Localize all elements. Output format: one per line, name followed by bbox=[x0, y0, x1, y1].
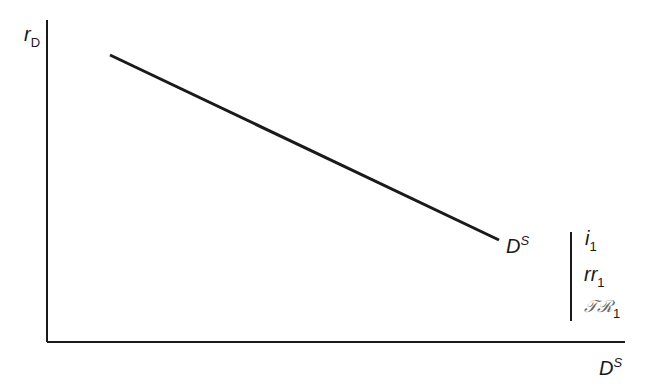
y-axis-label-sub: D bbox=[31, 35, 40, 50]
y-axis-label-base: r bbox=[24, 23, 31, 45]
shift-param-sub: 1 bbox=[613, 306, 620, 321]
shift-param-tr1: 𝒯ℛ1 bbox=[584, 295, 620, 315]
x-axis-label: DS bbox=[599, 358, 622, 378]
curve-label-base: D bbox=[506, 235, 520, 257]
shift-param-base: 𝒯ℛ bbox=[584, 296, 613, 316]
diagram-canvas bbox=[0, 0, 654, 389]
curve-label-sup: S bbox=[520, 233, 529, 248]
deposit-supply-curve bbox=[110, 55, 499, 240]
shift-param-base: rr bbox=[584, 263, 597, 285]
shift-param-rr1: rr1 bbox=[584, 264, 605, 284]
x-axis-label-sup: S bbox=[613, 355, 622, 370]
y-axis-label: rD bbox=[24, 24, 40, 44]
shift-param-sub: 1 bbox=[589, 239, 596, 254]
shift-param-sub: 1 bbox=[597, 275, 604, 290]
x-axis-label-base: D bbox=[599, 357, 613, 379]
shift-param-i1: i1 bbox=[585, 228, 597, 248]
curve-label: DS bbox=[506, 236, 529, 256]
